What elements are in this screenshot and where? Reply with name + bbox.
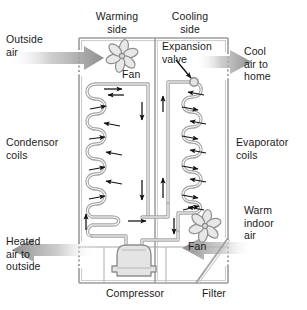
compressor-icon xyxy=(112,245,156,276)
label-fan-condenser: Fan xyxy=(122,68,156,81)
label-cool-air-to-home: Cool air to home xyxy=(244,45,304,83)
label-condensor-coils: Condensor coils xyxy=(6,136,78,161)
label-compressor: Compressor xyxy=(92,287,178,300)
label-cooling-side: Cooling side xyxy=(160,10,220,35)
label-fan-evaporator: Fan xyxy=(188,240,220,253)
evaporator-fan-icon xyxy=(188,209,222,243)
label-evaporator-coils: Evaporator coils xyxy=(236,136,306,161)
label-heated-air-to-outside: Heated air to outside xyxy=(6,235,72,273)
label-filter: Filter xyxy=(190,287,238,300)
label-warming-side: Warming side xyxy=(86,10,148,35)
label-warm-indoor-air: Warm indoor air xyxy=(244,204,304,242)
condenser-coil xyxy=(87,84,148,236)
label-expansion-valve: Expansion valve xyxy=(162,40,234,65)
heat-pump-diagram: Warming side Cooling side Outside air Co… xyxy=(0,0,307,310)
label-outside-air: Outside air xyxy=(6,33,68,58)
